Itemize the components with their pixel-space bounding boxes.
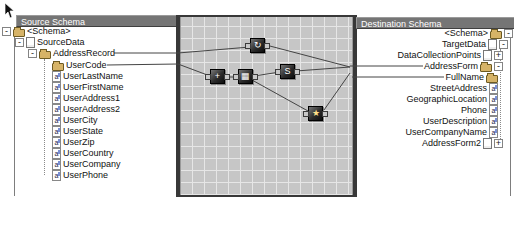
source-tree-item-schema[interactable]: -<Schema> [2, 26, 71, 37]
destination-tree-item-geographiclocation[interactable]: GeographicLocationa [406, 94, 498, 105]
field-icon: a [52, 159, 61, 170]
indent-spacer [41, 105, 50, 114]
tree-item-label: AddressForm2 [422, 138, 481, 149]
functoid-input-nub[interactable] [303, 111, 309, 117]
tree-item-label: UserAddress1 [63, 93, 120, 104]
collapse-icon[interactable]: - [504, 29, 513, 38]
destination-tree-item-fullname[interactable]: FullName [445, 72, 498, 83]
source-tree-item-userfirstname[interactable]: aUserFirstName [41, 82, 124, 93]
indent-spacer [41, 94, 50, 103]
source-tree-item-sourcedata[interactable]: -SourceData [15, 37, 85, 48]
indent-spacer [41, 138, 50, 147]
source-tree-item-usercity[interactable]: aUserCity [41, 115, 98, 126]
looping-functoid[interactable]: ↻ [250, 38, 265, 53]
field-icon: a [52, 93, 61, 104]
source-tree-item-userzip[interactable]: aUserZip [41, 137, 95, 148]
collapse-icon[interactable]: - [15, 38, 24, 47]
functoid-output-nub[interactable] [294, 69, 300, 75]
indent-spacer [41, 171, 50, 180]
field-icon: a [52, 148, 61, 159]
functoid-input-nub[interactable] [233, 74, 239, 80]
tree-item-label: UserCompany [63, 159, 121, 170]
tree-item-label: UserLastName [63, 71, 123, 82]
tree-item-label: UserZip [63, 137, 95, 148]
expand-icon[interactable]: + [494, 139, 503, 148]
field-icon: a [52, 137, 61, 148]
functoid-output-nub[interactable] [322, 111, 328, 117]
indent-spacer [41, 72, 50, 81]
tree-item-label: <Schema> [444, 28, 488, 39]
tree-item-label: AddressRecord [53, 48, 115, 59]
tree-item-label: SourceData [37, 37, 85, 48]
field-icon: a [52, 71, 61, 82]
destination-tree-item-usercompanyname[interactable]: UserCompanyNamea [405, 127, 498, 138]
doc-icon [483, 138, 492, 149]
source-tree-item-usercompany[interactable]: aUserCompany [41, 159, 121, 170]
destination-tree-item-phone[interactable]: Phonea [461, 105, 498, 116]
field-icon: a [489, 127, 498, 138]
destination-tree-item-userdescription[interactable]: UserDescriptiona [423, 116, 498, 127]
indent-spacer [41, 160, 50, 169]
destination-tree-item-streetaddress[interactable]: StreetAddressa [430, 83, 498, 94]
tree-item-label: UserCountry [63, 148, 114, 159]
tree-item-label: UserState [63, 126, 103, 137]
source-tree-item-usercountry[interactable]: aUserCountry [41, 148, 114, 159]
tree-item-label: StreetAddress [430, 83, 487, 94]
script-functoid[interactable]: S [280, 64, 295, 79]
field-icon: a [52, 115, 61, 126]
functoid-input-nub[interactable] [205, 74, 211, 80]
destination-tree-item-datacollectionpoints[interactable]: DataCollectionPoints+ [397, 50, 503, 61]
folder-icon [13, 29, 25, 37]
doc-icon [26, 37, 35, 48]
field-icon: a [489, 83, 498, 94]
functoid-input-nub[interactable] [245, 43, 251, 49]
field-icon: a [52, 126, 61, 137]
source-tree-item-userlastname[interactable]: aUserLastName [41, 71, 123, 82]
functoid-output-nub[interactable] [264, 43, 270, 49]
collapse-icon[interactable]: - [499, 40, 508, 49]
expand-icon[interactable]: + [494, 51, 503, 60]
doc-icon [488, 39, 497, 50]
destination-tree-guide-line [510, 38, 511, 196]
field-icon: a [52, 82, 61, 93]
indent-spacer [41, 83, 50, 92]
tree-item-label: UserDescription [423, 116, 487, 127]
functoid-2[interactable]: ▦ [238, 69, 253, 84]
functoid-input-nub[interactable] [275, 69, 281, 75]
destination-tree-item-schema[interactable]: <Schema>- [444, 28, 513, 39]
indent-spacer [41, 61, 50, 70]
source-tree-item-userstate[interactable]: aUserState [41, 126, 103, 137]
tree-item-label: GeographicLocation [406, 94, 487, 105]
functoid-1[interactable]: + [210, 69, 225, 84]
folder-icon [52, 63, 64, 71]
source-tree-item-usercode[interactable]: UserCode [41, 60, 107, 71]
tree-item-label: TargetData [442, 39, 486, 50]
tree-item-label: DataCollectionPoints [397, 50, 481, 61]
field-icon: a [489, 94, 498, 105]
source-tree-guide-line [14, 36, 15, 196]
destination-tree-item-addressform2[interactable]: AddressForm2+ [422, 138, 503, 149]
indent-spacer [41, 149, 50, 158]
source-tree-item-addressrecord[interactable]: -AddressRecord [28, 48, 115, 59]
collapse-icon[interactable]: - [28, 49, 37, 58]
tree-item-label: <Schema> [27, 26, 71, 37]
folder-icon [480, 64, 492, 72]
source-tree-item-userphone[interactable]: aUserPhone [41, 170, 108, 181]
tree-item-label: UserAddress2 [63, 104, 120, 115]
source-tree-item-useraddress1[interactable]: aUserAddress1 [41, 93, 120, 104]
folder-icon [486, 75, 498, 83]
collapse-icon[interactable]: - [2, 27, 11, 36]
tree-item-label: FullName [445, 72, 484, 83]
collapse-icon[interactable]: - [494, 62, 503, 71]
destination-tree-item-targetdata[interactable]: TargetData- [442, 39, 508, 50]
value-functoid[interactable]: ★ [308, 106, 323, 121]
folder-icon [490, 31, 502, 39]
field-icon: a [489, 105, 498, 116]
destination-tree-item-addressform[interactable]: AddressForm- [424, 61, 503, 72]
field-icon: a [52, 170, 61, 181]
source-tree-item-useraddress2[interactable]: aUserAddress2 [41, 104, 120, 115]
functoid-output-nub[interactable] [252, 74, 258, 80]
tree-item-label: UserFirstName [63, 82, 124, 93]
functoid-output-nub[interactable] [224, 74, 230, 80]
indent-spacer [41, 116, 50, 125]
